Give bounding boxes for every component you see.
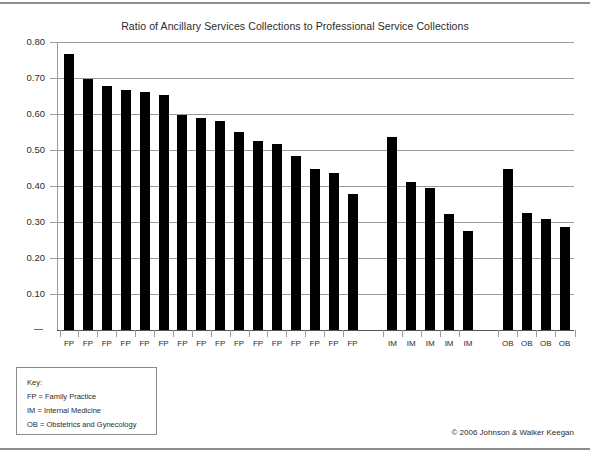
x-tick-mark bbox=[402, 330, 403, 337]
bar bbox=[272, 144, 282, 330]
legend-entry-ob: OB = Obstetrics and Gynecology bbox=[27, 420, 136, 429]
x-tick-mark bbox=[517, 330, 518, 337]
y-tick-label: 0.10 bbox=[5, 288, 45, 299]
x-tick-mark bbox=[116, 330, 117, 337]
top-divider bbox=[0, 2, 590, 4]
x-tick-label: FP bbox=[344, 339, 362, 348]
gridline bbox=[58, 114, 574, 115]
y-tick-label: 0.50 bbox=[5, 144, 45, 155]
bar bbox=[387, 137, 397, 330]
x-tick-label: FP bbox=[249, 339, 267, 348]
x-tick-label: IM bbox=[459, 339, 477, 348]
x-tick-label: FP bbox=[230, 339, 248, 348]
legend-box: Key: FP = Family Practice IM = Internal … bbox=[16, 367, 157, 435]
x-tick-mark bbox=[211, 330, 212, 337]
bar bbox=[291, 156, 301, 330]
bar bbox=[503, 169, 513, 330]
y-tick-mark bbox=[50, 186, 57, 187]
bar bbox=[348, 194, 358, 330]
bar bbox=[425, 188, 435, 330]
y-tick-mark bbox=[50, 114, 57, 115]
y-tick-mark bbox=[50, 294, 57, 295]
x-tick-label: FP bbox=[192, 339, 210, 348]
x-tick-label: OB bbox=[537, 339, 555, 348]
bottom-divider bbox=[0, 448, 590, 450]
gridline bbox=[58, 150, 574, 151]
x-tick-label: FP bbox=[325, 339, 343, 348]
chart-page: Ratio of Ancillary Services Collections … bbox=[0, 0, 590, 452]
bar bbox=[329, 173, 339, 330]
x-tick-label: FP bbox=[287, 339, 305, 348]
bar bbox=[444, 214, 454, 330]
bar bbox=[159, 95, 169, 330]
x-tick-mark bbox=[305, 330, 306, 337]
x-tick-label: IM bbox=[421, 339, 439, 348]
x-tick-label: FP bbox=[79, 339, 97, 348]
bar bbox=[522, 213, 532, 330]
bar bbox=[140, 92, 150, 330]
bar bbox=[196, 118, 206, 330]
gridline bbox=[58, 42, 574, 43]
y-tick-mark bbox=[50, 78, 57, 79]
x-tick-label: OB bbox=[556, 339, 574, 348]
x-tick-mark bbox=[343, 330, 344, 337]
x-tick-label: OB bbox=[518, 339, 536, 348]
bar bbox=[253, 141, 263, 330]
y-tick-label: 0.60 bbox=[5, 108, 45, 119]
bar bbox=[234, 132, 244, 330]
y-tick-mark bbox=[50, 258, 57, 259]
gridline bbox=[58, 78, 574, 79]
x-tick-mark bbox=[421, 330, 422, 337]
x-tick-mark bbox=[324, 330, 325, 337]
x-tick-label: OB bbox=[499, 339, 517, 348]
x-tick-label: IM bbox=[440, 339, 458, 348]
x-tick-mark bbox=[536, 330, 537, 337]
bar bbox=[406, 182, 416, 330]
y-tick-label: 0.70 bbox=[5, 72, 45, 83]
bar bbox=[310, 169, 320, 330]
bar bbox=[102, 86, 112, 330]
y-tick-label: 0.40 bbox=[5, 180, 45, 191]
x-tick-label: FP bbox=[117, 339, 135, 348]
x-tick-mark bbox=[78, 330, 79, 337]
x-tick-mark bbox=[60, 330, 61, 337]
x-tick-mark bbox=[267, 330, 268, 337]
x-tick-mark bbox=[498, 330, 499, 337]
x-tick-mark bbox=[555, 330, 556, 337]
y-tick-mark bbox=[50, 222, 57, 223]
y-zero-dash bbox=[34, 329, 43, 330]
y-tick-label: 0.30 bbox=[5, 216, 45, 227]
x-tick-mark bbox=[440, 330, 441, 337]
bar bbox=[560, 227, 570, 330]
y-tick-mark bbox=[50, 150, 57, 151]
legend-entry-im: IM = Internal Medicine bbox=[27, 406, 101, 415]
bar bbox=[121, 90, 131, 330]
x-tick-label: FP bbox=[60, 339, 78, 348]
chart-title: Ratio of Ancillary Services Collections … bbox=[0, 20, 590, 32]
x-tick-label: FP bbox=[155, 339, 173, 348]
x-tick-label: FP bbox=[173, 339, 191, 348]
x-tick-mark bbox=[192, 330, 193, 337]
bar bbox=[64, 54, 74, 330]
x-tick-label: IM bbox=[402, 339, 420, 348]
x-tick-mark-end bbox=[575, 330, 576, 337]
x-tick-mark bbox=[135, 330, 136, 337]
plot-area bbox=[58, 42, 574, 330]
copyright-text: © 2006 Johnson & Walker Keegan bbox=[451, 428, 574, 437]
bar bbox=[83, 79, 93, 330]
x-tick-mark bbox=[97, 330, 98, 337]
bar bbox=[177, 115, 187, 330]
x-tick-mark bbox=[230, 330, 231, 337]
x-tick-mark bbox=[459, 330, 460, 337]
legend-key-label: Key: bbox=[27, 378, 42, 387]
x-tick-label: FP bbox=[306, 339, 324, 348]
x-tick-mark bbox=[286, 330, 287, 337]
x-tick-label: FP bbox=[211, 339, 229, 348]
y-tick-mark bbox=[50, 42, 57, 43]
y-tick-label: 0.20 bbox=[5, 252, 45, 263]
x-tick-label: FP bbox=[98, 339, 116, 348]
bar bbox=[215, 121, 225, 330]
x-tick-mark bbox=[154, 330, 155, 337]
bar bbox=[463, 231, 473, 330]
x-tick-mark bbox=[249, 330, 250, 337]
